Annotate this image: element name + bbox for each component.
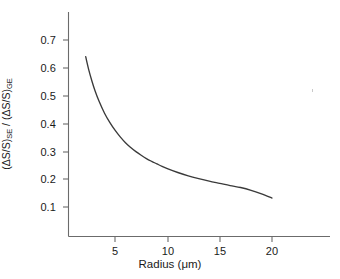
y-tick-label: 0.1 bbox=[26, 201, 56, 213]
x-tick-label: 20 bbox=[266, 245, 278, 257]
y-tick-label: 0.6 bbox=[26, 62, 56, 74]
y-tick-label: 0.3 bbox=[26, 146, 56, 158]
y-axis-title-denominator: (ΔS/S) bbox=[0, 89, 12, 120]
x-tick-label: 15 bbox=[214, 245, 226, 257]
y-axis-title-numerator: (ΔS/S) bbox=[0, 139, 12, 170]
y-tick-marks bbox=[63, 40, 69, 207]
y-axis-title-numerator-sub: SE bbox=[5, 129, 14, 139]
x-tick-marks bbox=[115, 237, 272, 243]
x-tick-label: 10 bbox=[162, 245, 174, 257]
chart-figure: 0.7 0.6 0.5 0.4 0.3 0.2 0.1 5 10 15 20 R… bbox=[0, 0, 340, 279]
y-tick-label: 0.4 bbox=[26, 118, 56, 130]
scan-artifact-speck bbox=[312, 89, 313, 92]
y-tick-label: 0.5 bbox=[26, 90, 56, 102]
y-tick-label: 0.2 bbox=[26, 173, 56, 185]
x-tick-label: 5 bbox=[112, 245, 118, 257]
y-axis-title: (ΔS/S)SE / (ΔS/S)GE bbox=[0, 78, 12, 170]
y-axis-title-denominator-sub: GE bbox=[5, 78, 14, 89]
y-tick-label: 0.7 bbox=[26, 34, 56, 46]
x-axis-title: Radius (μm) bbox=[0, 258, 340, 270]
y-axis-title-separator: / bbox=[0, 120, 12, 129]
data-curve-se-ge-ratio bbox=[86, 57, 272, 198]
